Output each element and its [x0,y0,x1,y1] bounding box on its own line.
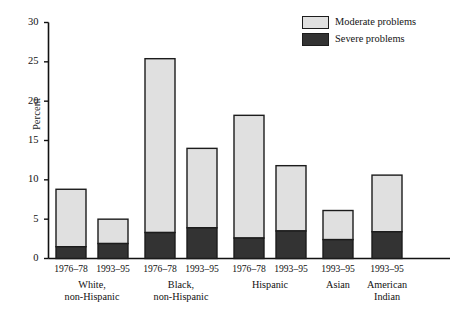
bar-stack [276,166,306,259]
legend-item-moderate: Moderate problems [302,16,416,29]
y-axis-tick-label: 5 [13,214,39,225]
y-axis-tick-label: 20 [13,96,39,107]
bar-segment-severe [56,247,86,259]
chart-container: Percent 051015202530 1976–781993–951976–… [0,0,454,320]
bar-segment-severe [372,232,402,259]
bar-segment-severe [98,244,128,259]
bar-segment-severe [145,233,175,259]
bar-segment-moderate [145,59,175,233]
bar-segment-severe [234,238,264,258]
group-label-line1: White, [47,279,137,291]
y-axis-tick-label: 25 [13,56,39,67]
bar-segment-severe [276,231,306,259]
y-axis-tick-label: 15 [13,135,39,146]
legend-swatch-moderate-icon [302,16,329,29]
bar-stack [187,148,217,258]
legend-label-moderate: Moderate problems [335,17,416,27]
x-axis-group-label: White,non-Hispanic [47,279,137,304]
bar-stack [234,115,264,258]
legend-swatch-severe-icon [302,33,329,46]
y-axis-tick-label: 0 [13,253,39,264]
group-label-line1: American [342,279,432,291]
y-axis-tick-label: 30 [13,17,39,28]
group-label-line1: Black, [136,279,226,291]
bar-segment-moderate [276,166,306,231]
bar-segment-severe [187,228,217,259]
bar-segment-severe [323,240,353,259]
bar-stack [98,219,128,258]
bar-segment-moderate [323,211,353,240]
bar-stack [145,59,175,259]
x-axis-tick-label: 1993–95 [357,263,417,274]
x-axis-group-label: Black,non-Hispanic [136,279,226,304]
bar-segment-moderate [372,175,402,232]
group-label-line2: non-Hispanic [136,291,226,303]
bar-segment-moderate [56,189,86,246]
y-axis-tick-label: 10 [13,174,39,185]
group-label-line2: non-Hispanic [47,291,137,303]
bar-stack [372,175,402,258]
bar-stack [323,211,353,259]
bar-stack [56,189,86,258]
legend-label-severe: Severe problems [335,34,405,44]
legend-item-severe: Severe problems [302,33,416,46]
x-axis-group-label: AmericanIndian [342,279,432,304]
bar-segment-moderate [187,148,217,227]
chart-legend: Moderate problems Severe problems [302,16,416,50]
bar-segment-moderate [234,115,264,238]
bar-segment-moderate [98,219,128,243]
group-label-line2: Indian [342,291,432,303]
